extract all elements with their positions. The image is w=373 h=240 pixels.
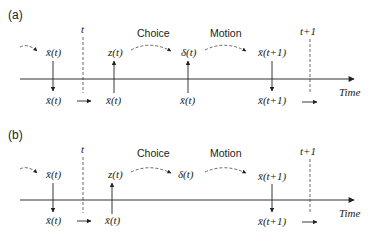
- time-axis-label: Time: [339, 86, 361, 98]
- choice-dashed-arrow: [131, 45, 171, 51]
- t-label: t: [81, 23, 85, 35]
- panel-a: (a) t t+1 Choice Motion Time x̄(t) x̄(t)…: [8, 8, 361, 107]
- panel-label: (b): [8, 128, 23, 142]
- state-x-top: x̄(t): [45, 168, 62, 181]
- delta-top: δ(t): [181, 46, 197, 59]
- panel-label: (a): [8, 8, 23, 22]
- delta-top: δ(t): [178, 168, 194, 181]
- delta-bottom-x: x̄(t): [179, 94, 196, 107]
- next-state-top: x̄(t+1): [257, 170, 287, 183]
- incoming-dashed-arrow: [20, 46, 37, 51]
- z-top: z(t): [107, 168, 123, 181]
- z-bottom-x: x̄(t): [105, 94, 122, 107]
- state-x-top: x̄(t): [45, 46, 62, 59]
- motion-label: Motion: [210, 27, 242, 39]
- t1-label: t+1: [300, 25, 316, 37]
- motion-dashed-arrow: [205, 45, 246, 51]
- z-top: z(t): [107, 46, 123, 59]
- next-state-top: x̄(t+1): [257, 46, 287, 59]
- t1-label: t+1: [300, 145, 316, 157]
- motion-label: Motion: [210, 147, 242, 159]
- state-x-bottom: x̄(t): [45, 214, 62, 227]
- choice-label: Choice: [137, 147, 170, 159]
- panel-b: (b) t t+1 Choice Motion Time x̄(t) x̄(t)…: [8, 128, 361, 228]
- z-bottom-x: x̄(t): [104, 214, 121, 227]
- state-x-bottom: x̄(t): [45, 94, 62, 107]
- motion-dashed-arrow: [205, 168, 246, 173]
- choice-label: Choice: [137, 27, 170, 39]
- timeline-diagram: (a) t t+1 Choice Motion Time x̄(t) x̄(t)…: [0, 0, 373, 240]
- t-label: t: [81, 143, 85, 155]
- next-state-bottom: x̄(t+1): [257, 94, 287, 107]
- incoming-dashed-arrow: [20, 168, 37, 173]
- choice-dashed-arrow: [131, 168, 171, 173]
- next-state-bottom: x̄(t+1): [257, 215, 287, 228]
- time-axis-label: Time: [339, 207, 361, 219]
